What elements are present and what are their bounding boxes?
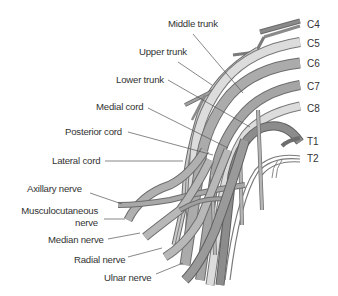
label-lateral-cord: Lateral cord — [52, 155, 100, 166]
root-label-c4: C4 — [307, 19, 320, 30]
label-middle-trunk: Middle trunk — [168, 18, 218, 29]
root-label-t2: T2 — [307, 153, 319, 164]
root-label-c5: C5 — [307, 38, 320, 49]
label-radial-nerve: Radial nerve — [74, 254, 125, 265]
label-musculocutaneous-nerve-line1: Musculocutaneous — [18, 205, 98, 216]
label-ulnar-nerve: Ulnar nerve — [104, 272, 151, 283]
label-posterior-cord: Posterior cord — [65, 126, 122, 137]
label-lower-trunk: Lower trunk — [116, 74, 164, 85]
brachial-plexus-illustration — [0, 0, 338, 296]
root-label-t1: T1 — [307, 136, 319, 147]
label-axillary-nerve: Axillary nerve — [27, 183, 82, 194]
label-median-nerve: Median nerve — [48, 234, 104, 245]
label-musculocutaneous-nerve-line2: nerve — [18, 217, 98, 228]
root-label-c6: C6 — [307, 58, 320, 69]
label-upper-trunk: Upper trunk — [139, 46, 187, 57]
root-label-c8: C8 — [307, 103, 320, 114]
label-medial-cord: Medial cord — [96, 101, 143, 112]
root-label-c7: C7 — [307, 81, 320, 92]
